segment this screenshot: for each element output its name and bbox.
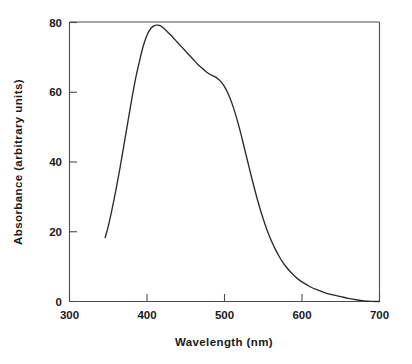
y-tick-label-0: 0 <box>56 296 62 308</box>
x-tick-label-700: 700 <box>370 309 389 321</box>
absorbance-curve <box>105 25 379 301</box>
y-tick-labels: 0 20 40 60 80 <box>49 17 62 308</box>
y-tick-label-20: 20 <box>49 226 62 238</box>
x-axis-title: Wavelength (nm) <box>175 336 273 348</box>
x-tick-labels: 300 400 500 600 700 <box>60 309 389 321</box>
x-tick-label-300: 300 <box>60 309 79 321</box>
y-tick-label-40: 40 <box>49 156 62 168</box>
plot-frame <box>70 22 380 302</box>
y-axis-ticks <box>70 23 78 302</box>
chart-canvas: 0 20 40 60 80 300 400 500 600 700 Wavele… <box>0 0 412 364</box>
y-tick-label-60: 60 <box>49 86 62 98</box>
x-tick-label-400: 400 <box>137 309 156 321</box>
x-tick-label-600: 600 <box>292 309 311 321</box>
y-tick-label-80: 80 <box>49 17 62 29</box>
y-axis-title: Absorbance (arbitrary units) <box>12 79 24 245</box>
absorbance-spectrum-figure: 0 20 40 60 80 300 400 500 600 700 Wavele… <box>0 0 412 364</box>
x-tick-label-500: 500 <box>215 309 234 321</box>
